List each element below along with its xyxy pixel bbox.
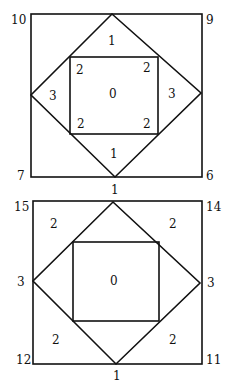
region-inner-tl: 2 [76,63,84,77]
region-right: 3 [168,87,176,101]
region-inner-br: 2 [143,117,151,131]
label-top-left: 15 [14,200,29,214]
label-top-right: 14 [206,200,222,214]
label-bottom-mid: 1 [111,183,119,197]
label-bottom-left: 12 [16,353,31,367]
region-corner-br: 2 [169,333,177,347]
region-center: 0 [110,274,118,288]
label-top-right: 9 [206,13,214,27]
region-corner-tl: 2 [50,217,58,231]
label-bottom-mid: 1 [113,369,121,383]
bottom-figure: 15 14 12 11 1 3 3 0 2 2 2 2 [14,200,222,383]
region-center: 0 [109,87,117,101]
region-inner-bl: 2 [77,117,85,131]
label-top-left: 10 [11,13,26,27]
label-bottom-right: 6 [206,169,214,183]
label-bottom-right: 11 [206,353,221,367]
top-figure: 10 9 7 6 1 1 3 3 1 0 2 2 2 2 [11,13,214,197]
region-left: 3 [49,89,57,103]
label-bottom-left: 7 [17,169,25,183]
region-corner-tr: 2 [169,217,177,231]
region-top: 1 [108,34,116,48]
region-inner-tr: 2 [143,61,151,75]
label-right-mid: 3 [207,276,215,290]
region-bottom: 1 [110,147,118,161]
region-corner-bl: 2 [52,333,60,347]
label-left-mid: 3 [17,275,25,289]
diagram: 10 9 7 6 1 1 3 3 1 0 2 2 2 2 15 14 12 11… [0,0,233,385]
